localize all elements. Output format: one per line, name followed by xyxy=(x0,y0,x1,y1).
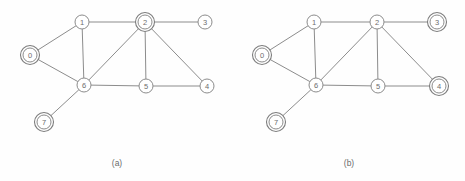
graph-figure-svg: 0123456701234567 (a)(b) xyxy=(0,0,465,181)
graph-node-7[interactable]: 7 xyxy=(35,113,54,132)
graph-edge-2-4 xyxy=(152,29,203,81)
node-label: 2 xyxy=(143,18,147,27)
panel-caption-a: (a) xyxy=(112,158,123,168)
graph-edge-2-5 xyxy=(377,29,378,79)
graph-node-3[interactable]: 3 xyxy=(198,15,212,29)
graph-node-1[interactable]: 1 xyxy=(75,15,89,29)
graph-node-0[interactable]: 0 xyxy=(21,46,40,65)
node-label: 5 xyxy=(144,82,148,91)
graph-node-2[interactable]: 2 xyxy=(370,15,384,29)
graph-edge-0-1 xyxy=(270,26,308,50)
node-label: 3 xyxy=(203,18,207,27)
graph-node-4[interactable]: 4 xyxy=(430,77,449,96)
graph-edge-5-6 xyxy=(323,85,371,86)
node-label: 1 xyxy=(80,18,84,27)
graph-node-5[interactable]: 5 xyxy=(371,79,385,93)
node-label: 7 xyxy=(274,118,278,127)
graph-node-6[interactable]: 6 xyxy=(77,78,91,92)
node-label: 0 xyxy=(28,51,32,60)
graph-edge-1-6 xyxy=(314,29,316,78)
edges-layer xyxy=(38,22,432,116)
node-label: 1 xyxy=(312,18,316,27)
graph-edge-2-5 xyxy=(145,32,146,80)
graph-node-2[interactable]: 2 xyxy=(136,13,155,32)
graph-edge-0-6 xyxy=(270,60,310,82)
graph-node-7[interactable]: 7 xyxy=(267,113,286,132)
figure-root: 0123456701234567 (a)(b) xyxy=(0,0,465,181)
graph-node-3[interactable]: 3 xyxy=(428,13,447,32)
node-label: 4 xyxy=(437,82,441,91)
graph-edge-6-7 xyxy=(51,90,79,116)
graph-edge-5-6 xyxy=(91,85,139,86)
node-label: 2 xyxy=(375,18,379,27)
node-label: 5 xyxy=(376,82,380,91)
graph-node-4[interactable]: 4 xyxy=(200,79,214,93)
node-label: 6 xyxy=(82,81,86,90)
graph-edge-2-6 xyxy=(89,29,139,80)
graph-edge-0-1 xyxy=(38,26,76,50)
nodes-layer: 0123456701234567 xyxy=(21,13,449,132)
graph-edge-6-7 xyxy=(283,90,311,116)
graph-edge-1-6 xyxy=(82,29,84,78)
graph-node-1[interactable]: 1 xyxy=(307,15,321,29)
panel-caption-b: (b) xyxy=(344,158,355,168)
graph-edge-0-6 xyxy=(38,60,78,82)
graph-node-5[interactable]: 5 xyxy=(139,79,153,93)
graph-node-6[interactable]: 6 xyxy=(309,78,323,92)
captions-layer: (a)(b) xyxy=(112,158,355,168)
graph-edge-2-6 xyxy=(321,27,372,80)
node-label: 3 xyxy=(435,18,439,27)
node-label: 4 xyxy=(205,82,209,91)
node-label: 7 xyxy=(42,118,46,127)
graph-edge-2-4 xyxy=(382,27,433,79)
graph-node-0[interactable]: 0 xyxy=(253,46,272,65)
node-label: 6 xyxy=(314,81,318,90)
node-label: 0 xyxy=(260,51,264,60)
